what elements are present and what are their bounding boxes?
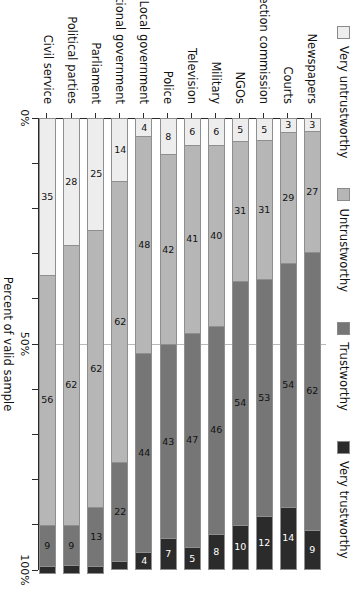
legend-item[interactable]: Trustworthy: [337, 322, 351, 411]
value-tick: [32, 253, 38, 254]
bar-segment: 56: [39, 275, 56, 526]
plot-area: 3276293295414531531253154106404686414758…: [39, 118, 321, 570]
category-label: Military: [208, 0, 225, 110]
bar-segment-value: 9: [309, 545, 315, 555]
category-label: National government: [111, 0, 128, 110]
bar-segment: 48: [135, 136, 152, 353]
bar-row[interactable]: 1462222: [111, 118, 128, 570]
value-ticklabel: 50%: [18, 332, 31, 356]
bar-segment: 8: [160, 118, 177, 154]
bar-row[interactable]: 5315410: [232, 118, 249, 570]
category-axis-labels: NewspapersCourtsElection commissionNGOsM…: [39, 0, 321, 110]
bar-segment-value: 54: [234, 398, 246, 408]
bar-row[interactable]: 448444: [135, 118, 152, 570]
bar-segment-value: 56: [42, 396, 54, 406]
bar-segment: 25: [87, 118, 104, 230]
bar-segment-value: 62: [90, 364, 102, 374]
bar-segment-value: 47: [186, 436, 198, 446]
bar-segment-value: 14: [114, 145, 126, 155]
bar-row[interactable]: 3295414: [280, 118, 297, 570]
category-label: Parliament: [87, 0, 104, 110]
bar-segment: 62: [111, 181, 128, 461]
bar-segment-value: 31: [258, 205, 270, 215]
bar-segment-value: 44: [138, 448, 150, 458]
bar-row[interactable]: 286291: [63, 118, 80, 570]
bar-segment: 27: [304, 131, 321, 252]
legend-swatch-icon: [338, 322, 351, 335]
bar-segment-value: 12: [258, 538, 270, 548]
bar-segment: 31: [232, 141, 249, 281]
bar-row[interactable]: 355691: [39, 118, 56, 570]
bar-segment: 41: [184, 145, 201, 332]
category-label: Television: [184, 0, 201, 110]
bar-segment: 5: [184, 547, 201, 570]
bar-segment-value: 29: [282, 193, 294, 203]
bar-segment-value: 5: [261, 125, 267, 135]
bar-segment: 44: [135, 353, 152, 552]
value-ticklabel: 100%: [18, 554, 31, 585]
bar-segment-value: 5: [189, 554, 195, 564]
bar-segment: 12: [256, 516, 273, 570]
value-tick: [32, 479, 38, 480]
bar-segment: 47: [184, 333, 201, 548]
bar-segment-value: 9: [69, 541, 75, 551]
category-label: Courts: [280, 0, 297, 110]
bar-segment: 4: [135, 118, 152, 136]
bar-row[interactable]: 641475: [184, 118, 201, 570]
bar-row[interactable]: 640468: [208, 118, 225, 570]
bar-segment-value: 3: [309, 120, 315, 130]
bar-segment: 53: [256, 279, 273, 516]
category-label: Police: [160, 0, 177, 110]
category-label: Local government: [135, 0, 152, 110]
bar-segment-value: 8: [213, 547, 219, 557]
bar-segment: 5: [232, 118, 249, 141]
bar-segment-value: 8: [165, 132, 171, 142]
bar-segment: 10: [232, 525, 249, 570]
bar-segment-value: 13: [90, 532, 102, 542]
legend-item[interactable]: Untrustworthy: [337, 188, 351, 292]
bar-segment: 9: [304, 530, 321, 570]
bar-row[interactable]: 5315312: [256, 118, 273, 570]
bar-segment: 14: [280, 507, 297, 570]
bar-segment-value: 25: [90, 170, 102, 180]
rotated-chart-frame: Very untrustworthyUntrustworthyTrustwort…: [0, 0, 359, 613]
bar-segment-value: 62: [66, 380, 78, 390]
bar-segment-value: 4: [141, 123, 147, 133]
bar-segment: 29: [280, 132, 297, 263]
bar-segment-value: 10: [234, 543, 246, 553]
legend-swatch-icon: [338, 441, 351, 454]
bar-segment: 5: [256, 118, 273, 140]
bar-segment: 22: [111, 462, 128, 561]
bar-segment-value: 46: [210, 426, 222, 436]
bar-segment: 9: [63, 525, 80, 566]
bar-segment: 62: [87, 230, 104, 507]
category-label: Newspapers: [304, 0, 321, 110]
legend-label: Untrustworthy: [337, 208, 351, 292]
bar-segment: 43: [160, 344, 177, 538]
bar-segment: 62: [63, 245, 80, 525]
bar-segment: 46: [208, 326, 225, 534]
value-tick: [32, 298, 38, 299]
bar-segment-value: 62: [114, 317, 126, 327]
bar-segment: 4: [135, 552, 152, 570]
bar-segment-value: 31: [234, 206, 246, 216]
value-tick: [32, 118, 38, 119]
legend-item[interactable]: Very untrustworthy: [337, 26, 351, 158]
category-label: Election commission: [256, 0, 273, 110]
bar-segment-value: 43: [162, 437, 174, 447]
bar-segment: 3: [304, 118, 321, 131]
category-label: Civil service: [39, 0, 56, 110]
bar-row[interactable]: 327629: [304, 118, 321, 570]
bar-segment-value: 27: [306, 188, 318, 198]
bar-segment: 31: [256, 140, 273, 279]
bar-segment: 1: [39, 566, 56, 574]
bar-segment: 1: [63, 565, 80, 573]
bar-row[interactable]: 842437: [160, 118, 177, 570]
legend-label: Very trustworthy: [337, 461, 351, 559]
legend-item[interactable]: Very trustworthy: [337, 441, 351, 559]
value-tick: [32, 434, 38, 435]
bar-row[interactable]: 2562131: [87, 118, 104, 570]
bar-segment: 9: [39, 525, 56, 565]
bar-segment-value: 54: [282, 380, 294, 390]
value-tick: [32, 389, 38, 390]
